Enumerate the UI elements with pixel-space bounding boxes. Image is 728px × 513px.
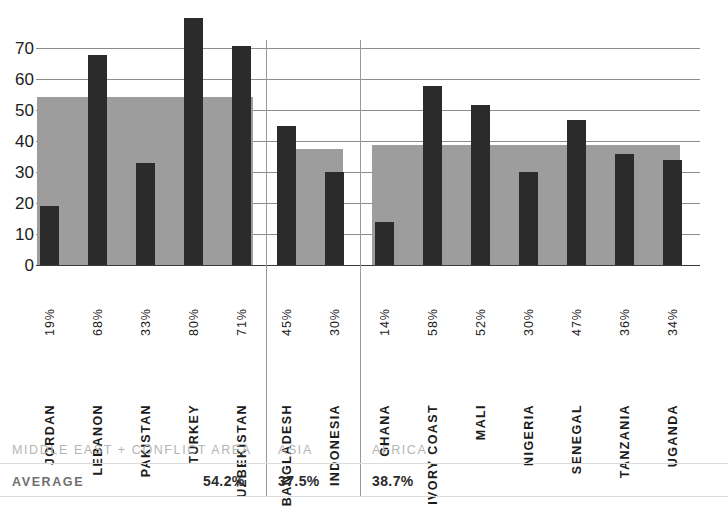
y-tick-0: 0 (4, 257, 34, 274)
region-label-africa: AFRICA (372, 443, 427, 457)
category-column: 58% IVORY COAST (420, 272, 446, 407)
y-tick-50: 50 (4, 102, 34, 119)
bar-nigeria (519, 172, 538, 265)
region-label-middle-east: MIDDLE EAST + CONFLICT AREA (12, 443, 252, 457)
category-percent: 68% (91, 308, 105, 336)
category-column: 30% NIGERIA (516, 272, 542, 407)
category-name: TANZANIA (618, 404, 632, 478)
category-percent: 45% (280, 308, 294, 336)
summary-bottom-divider (0, 496, 728, 497)
y-tick-60: 60 (4, 71, 34, 88)
summary-divider (0, 463, 728, 464)
category-column: 52% MALI (468, 272, 494, 407)
category-column: 36% TANZANIA (612, 272, 638, 407)
axis-baseline (36, 265, 700, 266)
bar-tanzania (615, 154, 634, 265)
gridline-60 (36, 79, 700, 80)
group-separator-1 (266, 40, 267, 496)
category-column: 45% BANGLADESH (274, 272, 300, 407)
category-column: 19% JORDAN (37, 272, 63, 407)
region-label-asia: ASIA (278, 443, 313, 457)
bar-lebanon (88, 55, 107, 265)
category-name: INDONESIA (328, 404, 342, 486)
bar-ivory-coast (423, 86, 442, 265)
bar-chart: 70 60 50 40 30 20 10 0 19% JORDAN 68% LE… (0, 0, 728, 513)
category-name: LEBANON (91, 404, 105, 476)
category-percent: 30% (328, 308, 342, 336)
category-column: 14% GHANA (372, 272, 398, 407)
category-percent: 47% (570, 308, 584, 336)
category-percent: 34% (666, 308, 680, 336)
category-percent: 33% (139, 308, 153, 336)
bar-indonesia (325, 172, 344, 265)
y-tick-70: 70 (4, 40, 34, 57)
category-percent: 58% (426, 308, 440, 336)
category-percent: 36% (618, 308, 632, 336)
average-value-asia: 37.5% (278, 473, 320, 489)
average-value-middle-east: 54.2% (203, 473, 245, 489)
bar-uzbekistan (232, 46, 251, 265)
category-name: NIGERIA (522, 404, 536, 466)
category-column: 68% LEBANON (85, 272, 111, 407)
y-axis: 70 60 50 40 30 20 10 0 (0, 0, 34, 513)
average-value-africa: 38.7% (372, 473, 414, 489)
bar-jordan (40, 206, 59, 265)
group-separator-2 (360, 40, 361, 496)
category-column: 80% TURKEY (181, 272, 207, 407)
category-name: UGANDA (666, 404, 680, 467)
category-percent: 30% (522, 308, 536, 336)
category-percent: 71% (235, 308, 249, 336)
category-percent: 14% (378, 308, 392, 336)
y-tick-30: 30 (4, 164, 34, 181)
category-column: 71% UZBEKISTAN (229, 272, 255, 407)
bar-turkey (184, 18, 203, 265)
y-tick-10: 10 (4, 226, 34, 243)
category-name: MALI (474, 404, 488, 440)
category-percent: 19% (43, 308, 57, 336)
bar-pakistan (136, 163, 155, 265)
category-column: 33% PAKISTAN (133, 272, 159, 407)
category-name: PAKISTAN (139, 404, 153, 477)
category-percent: 52% (474, 308, 488, 336)
category-column: 47% SENEGAL (564, 272, 590, 407)
y-tick-20: 20 (4, 195, 34, 212)
y-tick-40: 40 (4, 133, 34, 150)
category-percent: 80% (187, 308, 201, 336)
bar-uganda (663, 160, 682, 265)
average-row-label: AVERAGE (12, 475, 84, 489)
bar-senegal (567, 120, 586, 265)
bar-bangladesh (277, 126, 296, 265)
bar-ghana (375, 222, 394, 265)
bar-mali (471, 105, 490, 265)
gridline-70 (36, 48, 700, 49)
category-column: 30% INDONESIA (322, 272, 348, 407)
category-name: IVORY COAST (426, 404, 440, 505)
category-column: 34% UGANDA (660, 272, 686, 407)
